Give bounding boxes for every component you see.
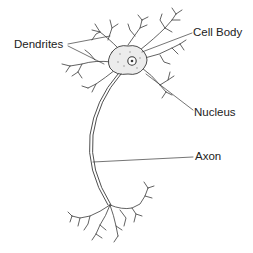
nucleus-shape bbox=[128, 57, 136, 65]
dendrites-leader-lower bbox=[68, 46, 104, 64]
axon-leader bbox=[93, 157, 193, 162]
nucleus-label: Nucleus bbox=[194, 107, 236, 119]
axon-shape bbox=[89, 74, 121, 205]
axon-terminals bbox=[68, 182, 154, 242]
dendrites-label: Dendrites bbox=[14, 39, 63, 51]
cell-body-label: Cell Body bbox=[193, 27, 242, 39]
neuron-diagram: Dendrites Cell Body Nucleus Axon bbox=[0, 0, 253, 253]
axon-label: Axon bbox=[195, 151, 221, 163]
dendrites-leader-upper bbox=[68, 36, 110, 44]
